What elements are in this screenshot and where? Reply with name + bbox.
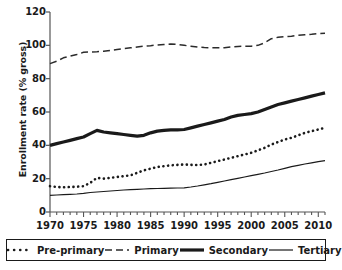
x-axis-tick-label: 1985: [137, 221, 165, 231]
series-line-tertiary: [50, 161, 325, 196]
legend-label: Tertiary: [298, 245, 342, 256]
y-axis-tick-label: 0: [22, 207, 46, 217]
chart-legend: Pre-primaryPrimarySecondaryTertiary: [6, 239, 326, 261]
x-axis-tick-label: 1975: [70, 221, 98, 231]
legend-label: Primary: [134, 245, 178, 256]
y-axis-tick-label: 120: [22, 7, 46, 17]
legend-item-secondary[interactable]: Secondary: [179, 245, 268, 256]
x-axis-tick-label: 2000: [237, 221, 265, 231]
x-axis-tick-label: 1995: [204, 221, 232, 231]
legend-label: Pre-primary: [37, 245, 104, 256]
thick-line-swatch: [179, 245, 205, 255]
legend-item-pre-primary[interactable]: Pre-primary: [7, 245, 104, 256]
legend-label: Secondary: [209, 245, 268, 256]
series-line-pre-primary: [50, 128, 325, 188]
x-axis-tick-label: 1990: [170, 221, 198, 231]
x-axis-tick-label: 1970: [36, 221, 64, 231]
series-line-secondary: [50, 93, 325, 146]
axes: [46, 12, 325, 217]
dotted-line-swatch: [7, 245, 33, 255]
y-axis-tick-label: 60: [22, 107, 46, 117]
dashed-line-swatch: [104, 245, 130, 255]
series-line-primary: [50, 33, 325, 63]
legend-item-tertiary[interactable]: Tertiary: [268, 245, 342, 256]
x-axis-tick-label: 2010: [304, 221, 332, 231]
legend-item-primary[interactable]: Primary: [104, 245, 178, 256]
x-axis-tick-label: 2005: [271, 221, 299, 231]
data-series: [50, 33, 325, 195]
y-axis-tick-label: 80: [22, 74, 46, 84]
x-axis-tick-label: 1980: [103, 221, 131, 231]
y-axis-tick-label: 40: [22, 140, 46, 150]
y-axis-tick-label: 100: [22, 40, 46, 50]
thin-line-swatch: [268, 245, 294, 255]
y-axis-tick-label: 20: [22, 174, 46, 184]
